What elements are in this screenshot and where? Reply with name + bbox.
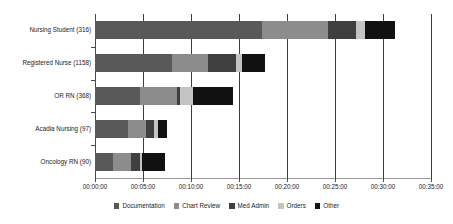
x-axis-tick-label: 00:10:00 bbox=[179, 183, 204, 191]
bar-row bbox=[95, 153, 431, 171]
x-axis-tick-mark bbox=[431, 178, 432, 182]
legend-swatch-icon bbox=[114, 203, 120, 209]
y-axis-category-label: Nursing Student (316) bbox=[3, 26, 91, 34]
legend-label: Med Admin bbox=[238, 202, 270, 210]
legend-label: Chart Review bbox=[182, 202, 220, 210]
legend-swatch-icon bbox=[315, 203, 321, 209]
legend-swatch-icon bbox=[278, 203, 284, 209]
x-axis-tick-label: 00:35:00 bbox=[419, 183, 444, 191]
bar-segment-chart-review bbox=[128, 120, 146, 138]
x-axis-tick-label: 00:20:00 bbox=[275, 183, 300, 191]
x-axis-tick-mark bbox=[383, 178, 384, 182]
bar-segment-med-admin bbox=[208, 54, 236, 72]
bar-segment-other bbox=[242, 54, 265, 72]
x-axis-tick-label: 00:00:00 bbox=[83, 183, 108, 191]
y-axis-category-label: Oncology RN (90) bbox=[3, 158, 91, 166]
x-axis-tick-mark bbox=[287, 178, 288, 182]
x-axis-tick-label: 00:25:00 bbox=[323, 183, 348, 191]
x-axis-tick-label: 00:05:00 bbox=[131, 183, 156, 191]
y-axis-tick-mark bbox=[91, 47, 95, 48]
x-axis-tick-label: 00:30:00 bbox=[371, 183, 396, 191]
bar-segment-orders bbox=[180, 87, 192, 105]
bar-segment-other bbox=[158, 120, 167, 138]
bar-segment-documentation bbox=[95, 153, 113, 171]
bar-segment-chart-review bbox=[140, 87, 176, 105]
legend-item[interactable]: Orders bbox=[278, 202, 306, 210]
bar-segment-other bbox=[365, 21, 396, 39]
y-axis-tick-mark bbox=[91, 145, 95, 146]
bar-row bbox=[95, 87, 431, 105]
legend-label: Orders bbox=[287, 202, 306, 210]
legend-label: Other bbox=[323, 202, 339, 210]
y-axis-tick-mark bbox=[91, 112, 95, 113]
legend-label: Documentation bbox=[122, 202, 164, 210]
bar-segment-chart-review bbox=[262, 21, 328, 39]
legend-swatch-icon bbox=[174, 203, 180, 209]
bar-segment-med-admin bbox=[131, 153, 140, 171]
x-axis-tick-mark bbox=[143, 178, 144, 182]
bar-segment-documentation bbox=[95, 120, 128, 138]
bar-segment-chart-review bbox=[172, 54, 208, 72]
x-axis-tick-mark bbox=[95, 178, 96, 182]
bar-row bbox=[95, 120, 431, 138]
plot-area bbox=[95, 14, 431, 178]
y-axis-category-label: Registered Nurse (1158) bbox=[3, 59, 91, 67]
bar-segment-other bbox=[142, 153, 165, 171]
gridline bbox=[431, 14, 432, 178]
bar-segment-orders bbox=[356, 21, 365, 39]
bar-segment-other bbox=[193, 87, 233, 105]
x-axis-tick-mark bbox=[239, 178, 240, 182]
x-axis-tick-label: 00:15:00 bbox=[227, 183, 252, 191]
x-axis-line bbox=[95, 178, 431, 179]
y-axis-category-label: Acadia Nursing (97) bbox=[3, 125, 91, 133]
y-axis-tick-mark bbox=[91, 80, 95, 81]
legend-item[interactable]: Chart Review bbox=[174, 202, 220, 210]
bar-row bbox=[95, 54, 431, 72]
y-axis-labels: Nursing Student (316)Registered Nurse (1… bbox=[0, 14, 91, 178]
bar-segment-documentation bbox=[95, 21, 262, 39]
legend-item[interactable]: Other bbox=[315, 202, 339, 210]
bar-segment-chart-review bbox=[113, 153, 131, 171]
y-axis-category-label: OR RN (368) bbox=[3, 92, 91, 100]
legend-item[interactable]: Documentation bbox=[114, 202, 165, 210]
bar-segment-med-admin bbox=[328, 21, 356, 39]
x-axis-tick-mark bbox=[335, 178, 336, 182]
legend-swatch-icon bbox=[229, 203, 235, 209]
bar-segment-med-admin bbox=[146, 120, 154, 138]
bar-row bbox=[95, 21, 431, 39]
legend-item[interactable]: Med Admin bbox=[229, 202, 269, 210]
bar-segment-documentation bbox=[95, 87, 140, 105]
x-axis-tick-mark bbox=[191, 178, 192, 182]
chart-legend: DocumentationChart ReviewMed AdminOrders… bbox=[0, 202, 453, 210]
bar-segment-documentation bbox=[95, 54, 172, 72]
stacked-bar-chart: Nursing Student (316)Registered Nurse (1… bbox=[0, 0, 453, 224]
